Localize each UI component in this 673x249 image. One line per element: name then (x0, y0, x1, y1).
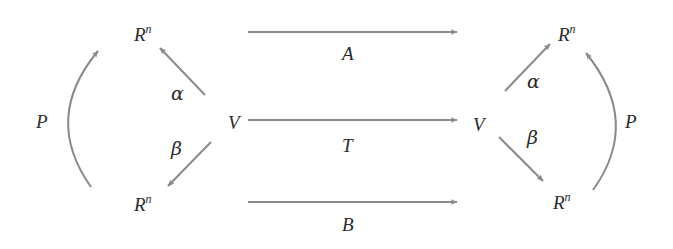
left-beta-label: β (170, 137, 182, 159)
commutative-diagram: A T B Rn V Rn α β P Rn V Rn α β P (0, 0, 673, 249)
left-p-label: P (35, 111, 48, 132)
arrow-b-label: B (342, 214, 354, 235)
left-top-node: Rn (133, 22, 152, 45)
right-bottom-node: Rn (552, 190, 571, 213)
arrow-t-label: T (342, 135, 354, 156)
arrow-t: T (248, 120, 457, 156)
right-beta-arrow: β (499, 126, 543, 181)
arrow-a: A (248, 32, 457, 64)
left-p-arc: P (35, 51, 98, 187)
right-beta-label: β (526, 126, 538, 148)
left-alpha-label: α (171, 82, 184, 104)
left-beta-arrow: β (168, 137, 211, 186)
left-alpha-arrow: α (160, 48, 205, 104)
left-v-node: V (228, 112, 242, 133)
right-alpha-label: α (527, 70, 540, 92)
right-p-label: P (624, 111, 637, 132)
right-alpha-arrow: α (505, 44, 550, 92)
arrow-a-label: A (340, 43, 354, 64)
right-p-arc: P (586, 53, 637, 190)
arrow-b: B (248, 202, 457, 235)
right-v-node: V (473, 114, 487, 135)
right-top-node: Rn (557, 22, 576, 45)
left-bottom-node: Rn (133, 192, 152, 215)
